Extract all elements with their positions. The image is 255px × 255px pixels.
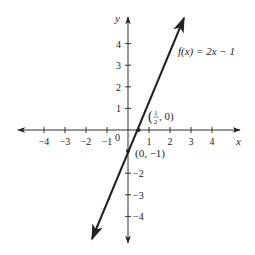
- svg-text:(: (: [148, 109, 153, 125]
- x-tick-label: −3: [60, 136, 71, 147]
- function-graph: −4−3−2−11234 −4−3−21234 x y 0 f(x) = 2x …: [0, 0, 255, 255]
- x-tick-label: 2: [168, 136, 173, 147]
- y-tick-label: 1: [116, 103, 121, 114]
- x-tick-label: −4: [39, 136, 50, 147]
- y-tick-label: −4: [133, 211, 144, 222]
- y-axis-label: y: [114, 12, 120, 24]
- x-tick-label: 4: [210, 136, 215, 147]
- svg-text:, 0): , 0): [159, 110, 174, 123]
- function-label: f(x) = 2x − 1: [178, 45, 235, 58]
- svg-text:2: 2: [154, 118, 158, 126]
- y-intercept-point: [126, 149, 130, 153]
- x-tick-label: 3: [189, 136, 194, 147]
- y-tick-label: −3: [133, 190, 144, 201]
- y-tick-label: 3: [116, 60, 121, 71]
- x-axis-label: x: [235, 135, 241, 147]
- x-tick-label: −2: [81, 136, 92, 147]
- x-intercept-point: [137, 128, 141, 132]
- x-tick-label: 1: [147, 136, 152, 147]
- y-tick-label: 4: [116, 39, 121, 50]
- y-tick-label: −2: [133, 168, 144, 179]
- origin-label: 0: [115, 132, 120, 143]
- x-intercept-label: ( 1 2 , 0): [148, 109, 174, 126]
- y-tick-label: 2: [116, 82, 121, 93]
- svg-text:1: 1: [154, 109, 158, 117]
- x-tick-label: −1: [102, 136, 113, 147]
- y-intercept-label: (0, −1): [135, 147, 165, 160]
